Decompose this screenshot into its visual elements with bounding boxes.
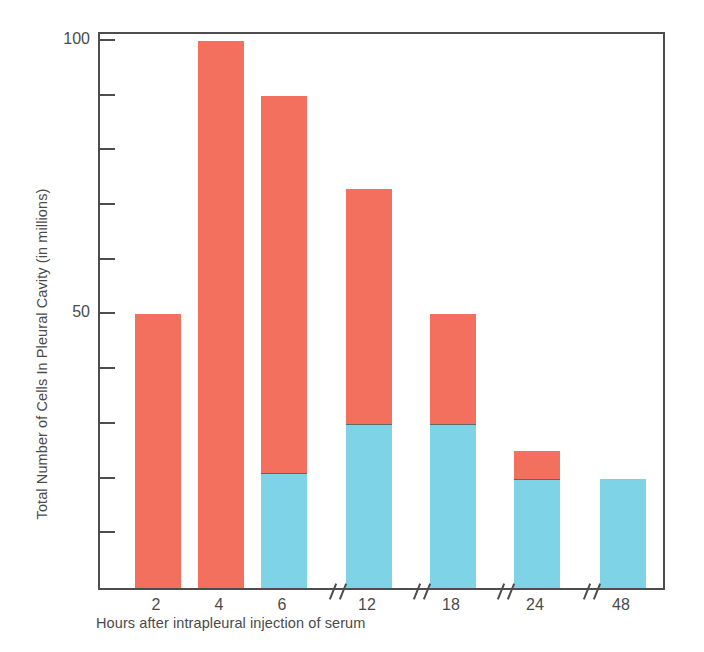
bar-segment-upper xyxy=(135,314,181,588)
bar-24h xyxy=(514,451,560,588)
y-axis-title: Total Number of Cells In Pleural Cavity … xyxy=(34,94,50,614)
y-axis-tick-label: 50 xyxy=(72,303,90,321)
axis-break-mark xyxy=(410,583,436,601)
bar-48h xyxy=(600,479,646,588)
y-axis-tick: 100 xyxy=(100,39,115,41)
y-axis-tick: 50 xyxy=(100,312,115,314)
axis-break-slash xyxy=(413,583,421,600)
x-axis-tick-label-2: 2 xyxy=(133,596,179,614)
axis-break-slash xyxy=(507,583,515,600)
y-axis-tick xyxy=(100,94,115,96)
axis-break-mark xyxy=(494,583,520,601)
bar-2h xyxy=(135,314,181,588)
bar-segment-upper xyxy=(198,41,244,588)
bar-18h xyxy=(430,314,476,588)
bar-segment-lower xyxy=(346,424,392,588)
bar-12h xyxy=(346,189,392,588)
bar-6h xyxy=(261,96,307,588)
axis-break-slash xyxy=(423,583,431,600)
chart-figure: Total Number of Cells In Pleural Cavity … xyxy=(0,0,704,652)
bar-4h xyxy=(198,41,244,588)
axis-break-slash xyxy=(497,583,505,600)
axis-break-slash xyxy=(593,583,601,600)
bar-segment-lower xyxy=(514,479,560,588)
y-axis-tick xyxy=(100,477,115,479)
bar-segment-lower xyxy=(600,479,646,588)
y-axis-tick xyxy=(100,148,115,150)
axis-break-mark xyxy=(326,583,352,601)
axis-break-slash xyxy=(339,583,347,600)
y-axis-tick xyxy=(100,422,115,424)
y-axis-tick xyxy=(100,367,115,369)
bar-segment-lower xyxy=(430,424,476,588)
plot-area: 50100 xyxy=(98,32,665,590)
axis-break-slash xyxy=(329,583,337,600)
axis-break-mark xyxy=(580,583,606,601)
y-axis-tick xyxy=(100,531,115,533)
y-axis-tick xyxy=(100,203,115,205)
bar-segment-lower xyxy=(261,473,307,588)
axis-break-slash xyxy=(583,583,591,600)
x-axis-title: Hours after intrapleural injection of se… xyxy=(96,615,566,631)
x-axis-tick-label-6: 6 xyxy=(259,596,305,614)
x-axis-tick-label-4: 4 xyxy=(196,596,242,614)
y-axis-tick-label: 100 xyxy=(63,30,90,48)
y-axis-tick xyxy=(100,258,115,260)
